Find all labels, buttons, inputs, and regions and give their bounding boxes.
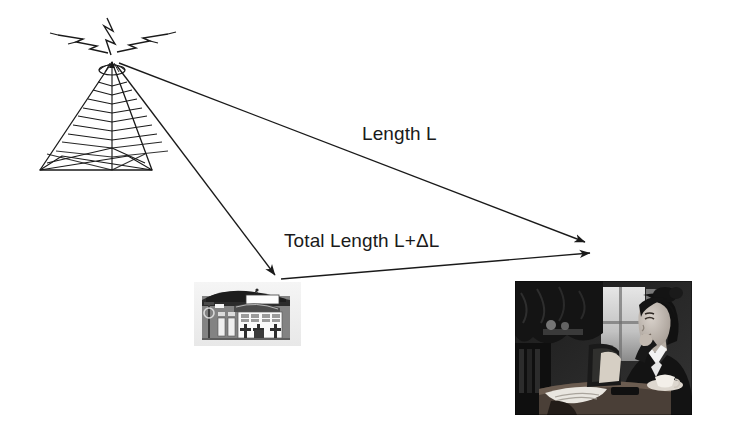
lightning-bolt-icon xyxy=(58,35,108,53)
direct-path-arrow xyxy=(119,63,585,242)
building-to-receiver-arrow xyxy=(281,253,590,279)
diagram-canvas: Length L Total Length L+ΔL xyxy=(0,0,736,436)
lightning-bolt-icon xyxy=(104,18,115,55)
direct-path-label: Length L xyxy=(362,124,437,144)
lightning-bolt-icon xyxy=(117,34,168,52)
broadcast-tower-icon xyxy=(40,62,168,170)
vector-overlay xyxy=(0,0,736,436)
indirect-path-label: Total Length L+ΔL xyxy=(284,231,439,251)
